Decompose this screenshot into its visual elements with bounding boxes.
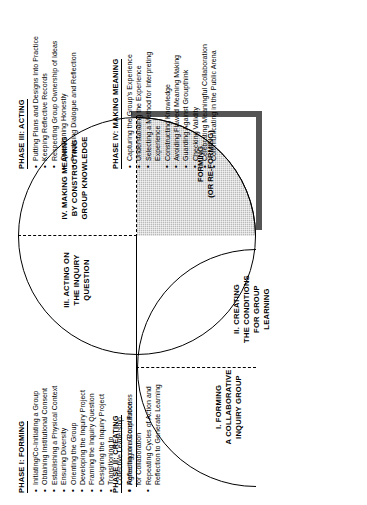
phase-item-label: Obtaining Institutional Consent [41,388,48,485]
phase-item: •Reflection to Generate Learning [153,343,162,493]
phase-item: •Communicating in the Public Arena [209,9,218,169]
phase-item: •Agreeing on a Constitution [125,343,134,493]
phase-item-label: for Collaboration [135,433,142,485]
quadrant-label-forming: I. FORMING A COLLABORATIVE INQUIRY GROUP [214,353,244,461]
phase-item: •Obtaining Institutional Consent [40,361,49,493]
phase-item: •Understanding the Experience [134,9,143,169]
phase-block-creating: PHASE II: CREATING•Agreeing on a Constit… [104,343,163,493]
diagram-rotation-wrapper: I. FORMING A COLLABORATIVE INQUIRY GROUP… [0,0,367,505]
phase-item-label: Communicating in the Public Arena [210,50,217,161]
phase-item-list: •Capturing the Group's Experience•Unders… [125,9,219,169]
phase-item: •Establishing a Physical Context [50,361,59,493]
phase-item-label: Experience [154,125,161,161]
phase-item: •Questioning Honestly [59,19,68,169]
phase-block-making-meaning: PHASE IV: MAKING MEANING•Capturing the G… [104,9,219,169]
phase-item: •Framing the Inquiry Question [87,361,96,493]
phase-item-label: Celebrating Meaningful Collaboration [201,44,208,161]
phase-item-label: Establishing a Physical Context [51,386,58,485]
phase-item-label: Questioning Honestly [60,93,67,161]
phase-item-list: •Agreeing on a Constitution•for Collabor… [125,343,163,493]
phase-item-label: Practicing Dialogue and Reflection [70,52,77,161]
phase-item-label: Respecting Group Ownership of Ideas [51,41,58,161]
quadrant-label-acting: III. ACTING ON THE INQUIRY QUESTION [62,237,92,323]
phase-item-label: Initiating/Co-Initiating a Group [32,391,39,485]
bullet-icon: • [209,165,220,168]
phase-item-label: Agreeing on a Constitution [126,401,133,485]
phase-item: •Ensuring Diversity [59,361,68,493]
phase-item: •for Collaboration [134,343,143,493]
phase-heading: PHASE II: CREATING [111,415,122,493]
phase-item: •Checking Validity [191,9,200,169]
phase-item: •Capturing the Group's Experience [125,9,134,169]
phase-item-label: Keeping Reflective Records [41,73,48,161]
phase-item-label: Framing the Inquiry Question [88,393,95,485]
phase-item-label: Capturing the Group's Experience [126,54,133,161]
collaborative-inquiry-diagram: I. FORMING A COLLABORATIVE INQUIRY GROUP… [0,0,367,505]
phase-item: •Guarding Against Groupthink [181,9,190,169]
phase-item-label: Checking Validity [192,107,199,161]
phase-item: •Orienting the Group [69,361,78,493]
quadrant-label-creating: II. CREATING THE CONDITIONS FOR GROUP LE… [232,263,272,355]
phase-heading: PHASE I: FORMING [17,421,28,493]
phase-item: •Celebrating Meaningful Collaboration [200,9,209,169]
phase-item: •Putting Plans and Designs Into Practice [31,19,40,169]
phase-item: •Avoiding Flawed Meaning Making [172,9,181,169]
phase-item-label: Selecting a Method for Interpreting [145,52,152,161]
phase-item-label: Orienting the Group [70,423,77,485]
phase-item-label: Putting Plans and Designs Into Practice [32,36,39,161]
phase-item: •Selecting a Method for Interpreting [144,9,153,169]
phase-item: •Practicing Dialogue and Reflection [69,19,78,169]
phase-item: •Experience [153,9,162,169]
phase-item-label: Constructing Knowledge [164,84,171,161]
phase-heading: PHASE IV: MAKING MEANING [111,59,122,169]
phase-item-label: Guarding Against Groupthink [182,70,189,161]
phase-item: •Initiating/Co-Initiating a Group [31,361,40,493]
shaded-quadrant-shadow-bottom [256,111,262,230]
phase-item-label: Repeating Cycles of Action and [145,386,152,485]
bullet-icon: • [68,165,79,168]
phase-item-label: Developing the Inquiry Project [79,390,86,485]
phase-item: •Constructing Knowledge [163,9,172,169]
phase-item-list: •Putting Plans and Designs Into Practice… [31,19,78,169]
phase-item: •Repeating Cycles of Action and [144,343,153,493]
phase-item-label: Avoiding Flawed Meaning Making [173,55,180,161]
phase-item-label: Reflection to Generate Learning [154,384,161,485]
phase-block-acting: PHASE III: ACTING•Putting Plans and Desi… [10,19,78,169]
phase-item: •Respecting Group Ownership of Ideas [50,19,59,169]
phase-item-label: Ensuring Diversity [60,428,67,485]
phase-item: •Keeping Reflective Records [40,19,49,169]
phase-item-label: Understanding the Experience [135,65,142,161]
phase-heading: PHASE III: ACTING [17,99,28,169]
phase-item: •Developing the Inquiry Project [78,361,87,493]
